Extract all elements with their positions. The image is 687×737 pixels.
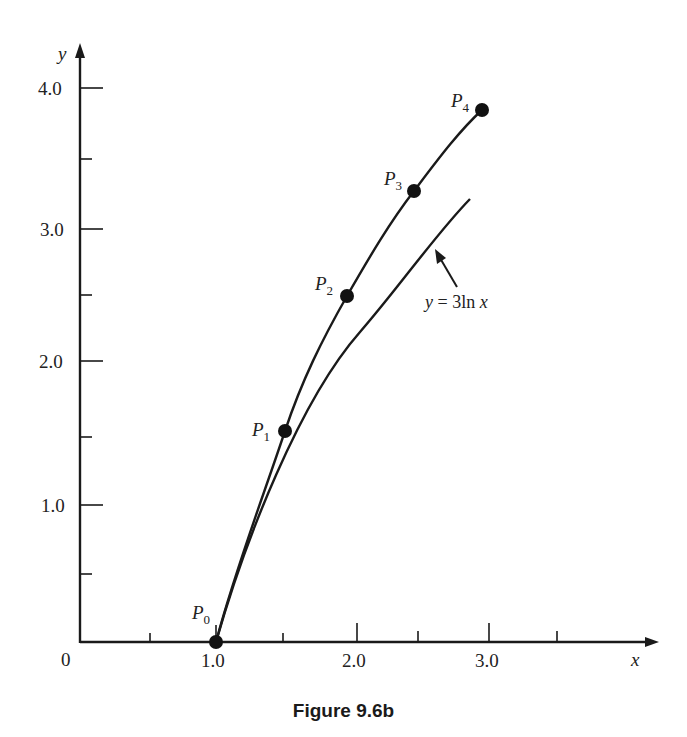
x-tick-label-2: 2.0 [342,650,366,671]
x-axis-arrow-icon [645,637,659,647]
label-p3: P3 [383,168,402,193]
y-tick-label-4: 4.0 [38,78,62,99]
point-p4 [475,103,489,117]
y-tick-label-2: 2.0 [39,351,63,372]
label-p1: P1 [251,419,270,444]
x-tick-label-1: 1.0 [201,650,225,671]
y-tick-label-1: 1.0 [41,495,65,516]
point-p0 [209,635,223,649]
euler-curve [216,110,482,642]
point-p3 [407,184,421,198]
label-p2: P2 [314,273,333,298]
label-p0: P0 [191,602,210,627]
y-axis-label: y [56,43,67,64]
data-points [209,103,489,649]
y-ticks [80,88,103,574]
x-tick-label-3: 3.0 [475,650,499,671]
tick-labels: 0 1.0 2.0 3.0 4.0 3.0 2.0 1.0 [38,78,499,671]
point-labels: P0 P1 P2 P3 P4 [191,90,470,627]
y-tick-label-3: 3.0 [40,219,64,240]
annotation-arrow-icon [435,249,446,264]
axes [80,52,650,643]
y-axis-arrow-icon [75,43,85,58]
point-p2 [340,289,354,303]
origin-label: 0 [61,649,71,670]
point-p1 [278,424,292,438]
chart-figure: 0 1.0 2.0 3.0 4.0 3.0 2.0 1.0 y x P0 P1 … [0,0,687,737]
figure-caption: Figure 9.6b [0,700,687,722]
label-p4: P4 [450,90,470,115]
x-axis-label: x [630,649,640,670]
curve-label: y = 3ln x [423,292,488,312]
annotation-arrow-line [440,258,457,287]
